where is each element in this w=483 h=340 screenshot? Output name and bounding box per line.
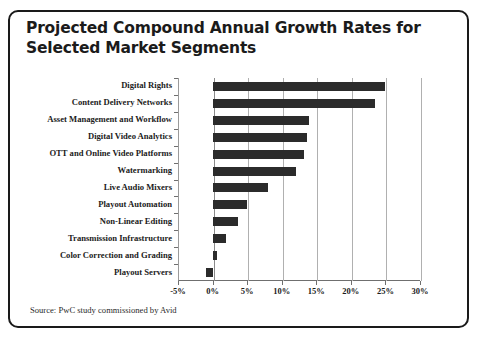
category-label-text: Playout Servers (0, 267, 172, 277)
gridline-30% (421, 78, 422, 281)
x-tick-mark (213, 281, 214, 285)
bar (213, 251, 218, 260)
bar (213, 99, 375, 108)
bar (213, 200, 248, 209)
bar (213, 167, 296, 176)
source-note: Source: PwC study commissioned by Avid (30, 305, 177, 315)
bar (206, 268, 213, 277)
plot-wrapper: -5%0%5%10%15%20%25%30%Digital RightsCont… (0, 0, 483, 340)
category-label-text: Playout Automation (0, 199, 172, 209)
category-label-text: Digital Rights (0, 80, 172, 90)
bar (213, 150, 304, 159)
y-tick-mark (174, 213, 178, 214)
x-tick-label: 30% (400, 286, 440, 296)
x-tick-mark (247, 281, 248, 285)
y-tick-mark (174, 247, 178, 248)
y-tick-mark (174, 112, 178, 113)
bar (213, 82, 386, 91)
y-tick-mark (174, 78, 178, 79)
gridline-5% (248, 78, 249, 281)
x-tick-mark (385, 281, 386, 285)
y-tick-mark (174, 264, 178, 265)
bar (213, 116, 310, 125)
bar (213, 217, 239, 226)
bar (213, 133, 307, 142)
category-label-text: Asset Management and Workflow (0, 114, 172, 124)
chart-figure: Projected Compound Annual Growth Rates f… (0, 0, 483, 340)
category-label-text: Digital Video Analytics (0, 131, 172, 141)
x-tick-mark (316, 281, 317, 285)
y-tick-mark (174, 180, 178, 181)
bar (213, 234, 227, 243)
y-tick-mark (174, 129, 178, 130)
y-tick-mark (174, 230, 178, 231)
x-tick-mark (351, 281, 352, 285)
gridline-10% (283, 78, 284, 281)
x-tick-mark (282, 281, 283, 285)
gridline-20% (352, 78, 353, 281)
bar (213, 183, 268, 192)
y-tick-mark (174, 196, 178, 197)
gridline-15% (317, 78, 318, 281)
category-label-text: Non-Linear Editing (0, 216, 172, 226)
category-label-text: OTT and Online Video Platforms (0, 148, 172, 158)
category-label-text: Watermarking (0, 165, 172, 175)
x-tick-mark (178, 281, 179, 285)
gridline-25% (386, 78, 387, 281)
category-label-text: Content Delivery Networks (0, 97, 172, 107)
y-tick-mark (174, 163, 178, 164)
category-label-text: Live Audio Mixers (0, 182, 172, 192)
category-label-text: Color Correction and Grading (0, 250, 172, 260)
y-tick-mark (174, 95, 178, 96)
x-tick-mark (420, 281, 421, 285)
category-label-text: Transmission Infrastructure (0, 233, 172, 243)
y-tick-mark (174, 146, 178, 147)
